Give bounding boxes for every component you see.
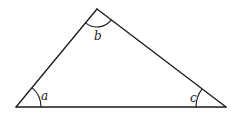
angle-b-arc <box>86 20 112 27</box>
angle-c-label: c <box>190 91 197 105</box>
angle-c-arc <box>196 89 202 107</box>
triangle-diagram: a b c <box>0 0 237 118</box>
side-ab <box>16 9 97 107</box>
angle-a-label: a <box>41 89 48 103</box>
angle-a-arc <box>32 88 41 107</box>
side-bc <box>97 9 226 107</box>
angle-b-label: b <box>94 29 102 43</box>
